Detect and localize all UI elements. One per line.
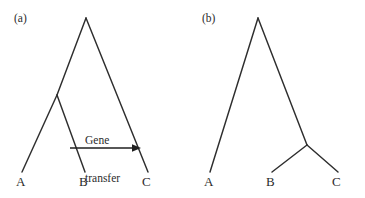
panel-a-tip-label-b: B <box>79 175 88 190</box>
panel-b-branches <box>210 18 338 172</box>
branch-a-ab-to-a <box>22 95 57 172</box>
branch-b-root-to-a <box>210 18 258 172</box>
panel-a-tip-label-c: C <box>142 175 151 190</box>
tree-diagram-svg <box>0 0 365 198</box>
branch-b-bc-to-c <box>307 145 338 172</box>
panel-b-tip-label-a: A <box>204 175 213 190</box>
panel-b-tip-label-c: C <box>332 175 341 190</box>
gene-transfer-line-2: transfer <box>85 172 120 185</box>
panel-b-label: (b) <box>202 12 215 25</box>
branch-b-root-to-bc <box>258 18 307 145</box>
gene-transfer-line-1: Gene <box>85 134 120 147</box>
branch-b-bc-to-b <box>272 145 307 172</box>
branch-a-ab-to-b <box>57 95 85 172</box>
panel-a-tip-label-a: A <box>16 175 25 190</box>
figure-canvas: (a) Gene transfer A B C (b) A B C <box>0 0 365 198</box>
gene-transfer-annotation: Gene transfer <box>85 108 120 198</box>
panel-b-tip-label-b: B <box>266 175 275 190</box>
panel-a-label: (a) <box>14 12 27 25</box>
branch-a-root-to-ab <box>57 18 86 95</box>
